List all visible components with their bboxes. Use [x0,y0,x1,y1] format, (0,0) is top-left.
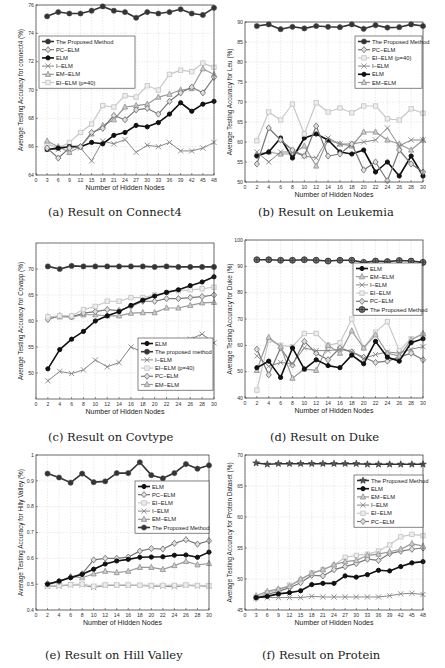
legend-item: PC−ELM [141,373,179,379]
y-tick-label: 0.7 [27,529,34,535]
x-tick-label: 36 [376,612,382,618]
chart-panel-b: 0246810121416182022242628305055606570758… [225,0,445,220]
data-point-marker [349,22,354,27]
data-point-marker [129,303,133,307]
x-tick-label: 12 [78,177,84,183]
x-tick-label: 22 [373,184,379,190]
legend-label: I−ELM [371,502,388,508]
y-tick-label: 55 [28,344,34,350]
data-point-marker [290,102,294,106]
legend: ELMEM−ELMI−ELMEI−ELMPC−ELMThe Proposed M… [353,263,427,315]
data-point-marker [176,288,180,292]
x-tick-label: 10 [301,400,307,406]
data-point-marker [278,118,282,122]
legend-label: PC−ELM [371,519,395,525]
data-point-marker [145,9,150,14]
legend-marker-icon [142,501,146,505]
legend-label: EM−ELM [152,516,176,522]
x-tick-label: 0 [244,612,247,618]
y-tick-label: 50 [237,179,243,185]
data-point-marker [78,11,83,16]
data-point-marker [91,584,95,588]
data-point-marker [58,314,62,318]
data-point-marker [410,561,414,565]
x-tick-label: 30 [420,400,426,406]
y-tick-label: 1 [31,452,34,458]
x-tick-label: 26 [187,401,193,407]
legend-label: PC−ELM [155,373,179,379]
data-point-marker [129,295,133,299]
data-point-marker [343,574,347,578]
y-axis-label: Average Testing Accuracy for connect4 (%… [17,29,25,151]
x-tick-label: 16 [337,400,343,406]
x-tick-label: 12 [104,401,110,407]
data-point-marker [78,130,82,134]
data-point-marker [302,367,306,371]
x-tick-label: 18 [137,612,143,618]
data-point-marker [93,319,97,323]
data-point-marker [156,120,160,124]
y-axis-label: Average Testing Accuracy for Protein Dat… [226,462,234,602]
x-tick-label: 20 [148,612,154,618]
legend-marker-icon [145,341,149,345]
legend-label: EI−ELM [371,510,392,516]
legend-marker-icon [142,484,146,488]
data-point-marker [361,104,365,108]
chart-panel-e: 0246810121416182022242628300.40.50.60.70… [0,445,225,665]
x-tick-label: 39 [387,612,393,618]
data-point-marker [362,148,366,152]
data-point-marker [184,553,188,557]
y-tick-label: 76 [28,2,34,8]
data-point-marker [69,314,73,318]
data-point-marker [397,359,401,363]
y-axis-label: Average Testing Accuracy for Covapp (%) [17,262,25,380]
x-tick-label: 15 [298,612,304,618]
data-point-marker [399,535,403,539]
data-point-marker [278,257,284,263]
caption-d: (d) Result on Duke [270,430,379,444]
data-point-marker [93,304,97,308]
y-tick-label: 0.9 [27,478,34,484]
x-tick-label: 18 [100,177,106,183]
data-point-marker [399,565,403,569]
legend-label: PC−ELM [372,47,396,53]
y-tick-label: 60 [237,342,243,348]
data-point-marker [134,123,138,127]
data-point-marker [350,353,354,357]
data-point-marker [255,154,259,158]
x-tick-label: 9 [277,612,280,618]
x-tick-label: 6 [279,184,282,190]
legend-item: EI−ELM (p=40) [358,55,411,61]
x-axis-label: Number of Hidden Nodes [295,619,374,626]
data-point-marker [81,329,85,333]
data-point-marker [321,581,325,585]
legend-item: EI−ELM [356,290,391,296]
data-point-marker [161,555,165,559]
data-point-marker [117,310,121,314]
y-tick-label: 0.5 [27,581,34,587]
data-point-marker [376,568,380,572]
legend-label: ELM [155,341,167,347]
data-point-marker [161,583,165,587]
data-point-marker [195,466,200,471]
caption-a: (a) Result on Connect4 [48,205,182,219]
data-point-marker [81,264,86,269]
data-point-marker [189,11,194,16]
x-tick-label: 18 [140,401,146,407]
data-point-marker [115,559,119,563]
data-point-marker [255,139,259,143]
data-point-marker [385,117,389,121]
legend-label: EI−ELM (p=40) [372,55,411,61]
data-point-marker [164,290,168,294]
data-point-marker [58,348,62,352]
legend-label: The Proposed Method [371,478,428,484]
data-point-marker [361,26,366,31]
x-tick-label: 6 [279,400,282,406]
data-point-marker [409,154,413,158]
y-tick-label: 70 [237,99,243,105]
data-point-marker [103,479,108,484]
y-tick-label: 70 [28,87,34,93]
y-tick-label: 45 [237,607,243,613]
data-point-marker [46,367,50,371]
legend-item: EM−ELM [141,381,179,387]
